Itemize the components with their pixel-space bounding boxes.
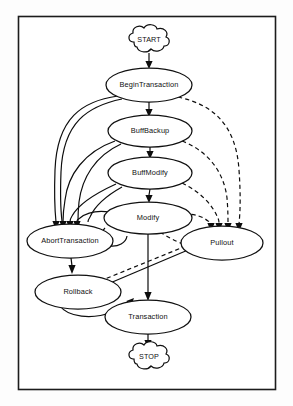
node-modify[interactable]: Modify (104, 202, 192, 234)
node-buffbackup-label: BuffBackup (131, 126, 170, 135)
node-aborttransaction-label: AbortTransaction (41, 236, 99, 245)
node-transaction-label: Transaction (128, 312, 167, 321)
node-pullout-label: Pullout (210, 238, 233, 247)
node-stop-label: STOP (139, 352, 159, 361)
node-buffmodify-label: BuffModify (132, 168, 168, 177)
node-rollback-label: Rollback (63, 287, 92, 296)
transaction-state-diagram: START BeginTransaction BuffBackup BuffMo… (0, 0, 293, 406)
node-modify-label: Modify (137, 213, 160, 222)
node-begintransaction[interactable]: BeginTransaction (106, 68, 192, 102)
node-buffmodify[interactable]: BuffModify (108, 157, 192, 189)
node-pullout[interactable]: Pullout (181, 226, 263, 260)
node-transaction[interactable]: Transaction (105, 300, 191, 334)
node-rollback[interactable]: Rollback (35, 275, 121, 309)
node-aborttransaction[interactable]: AbortTransaction (27, 224, 113, 258)
figure-root: START BeginTransaction BuffBackup BuffMo… (0, 0, 293, 406)
node-begintransaction-label: BeginTransaction (120, 80, 179, 89)
node-start-label: START (137, 35, 161, 44)
node-buffbackup[interactable]: BuffBackup (108, 115, 192, 147)
